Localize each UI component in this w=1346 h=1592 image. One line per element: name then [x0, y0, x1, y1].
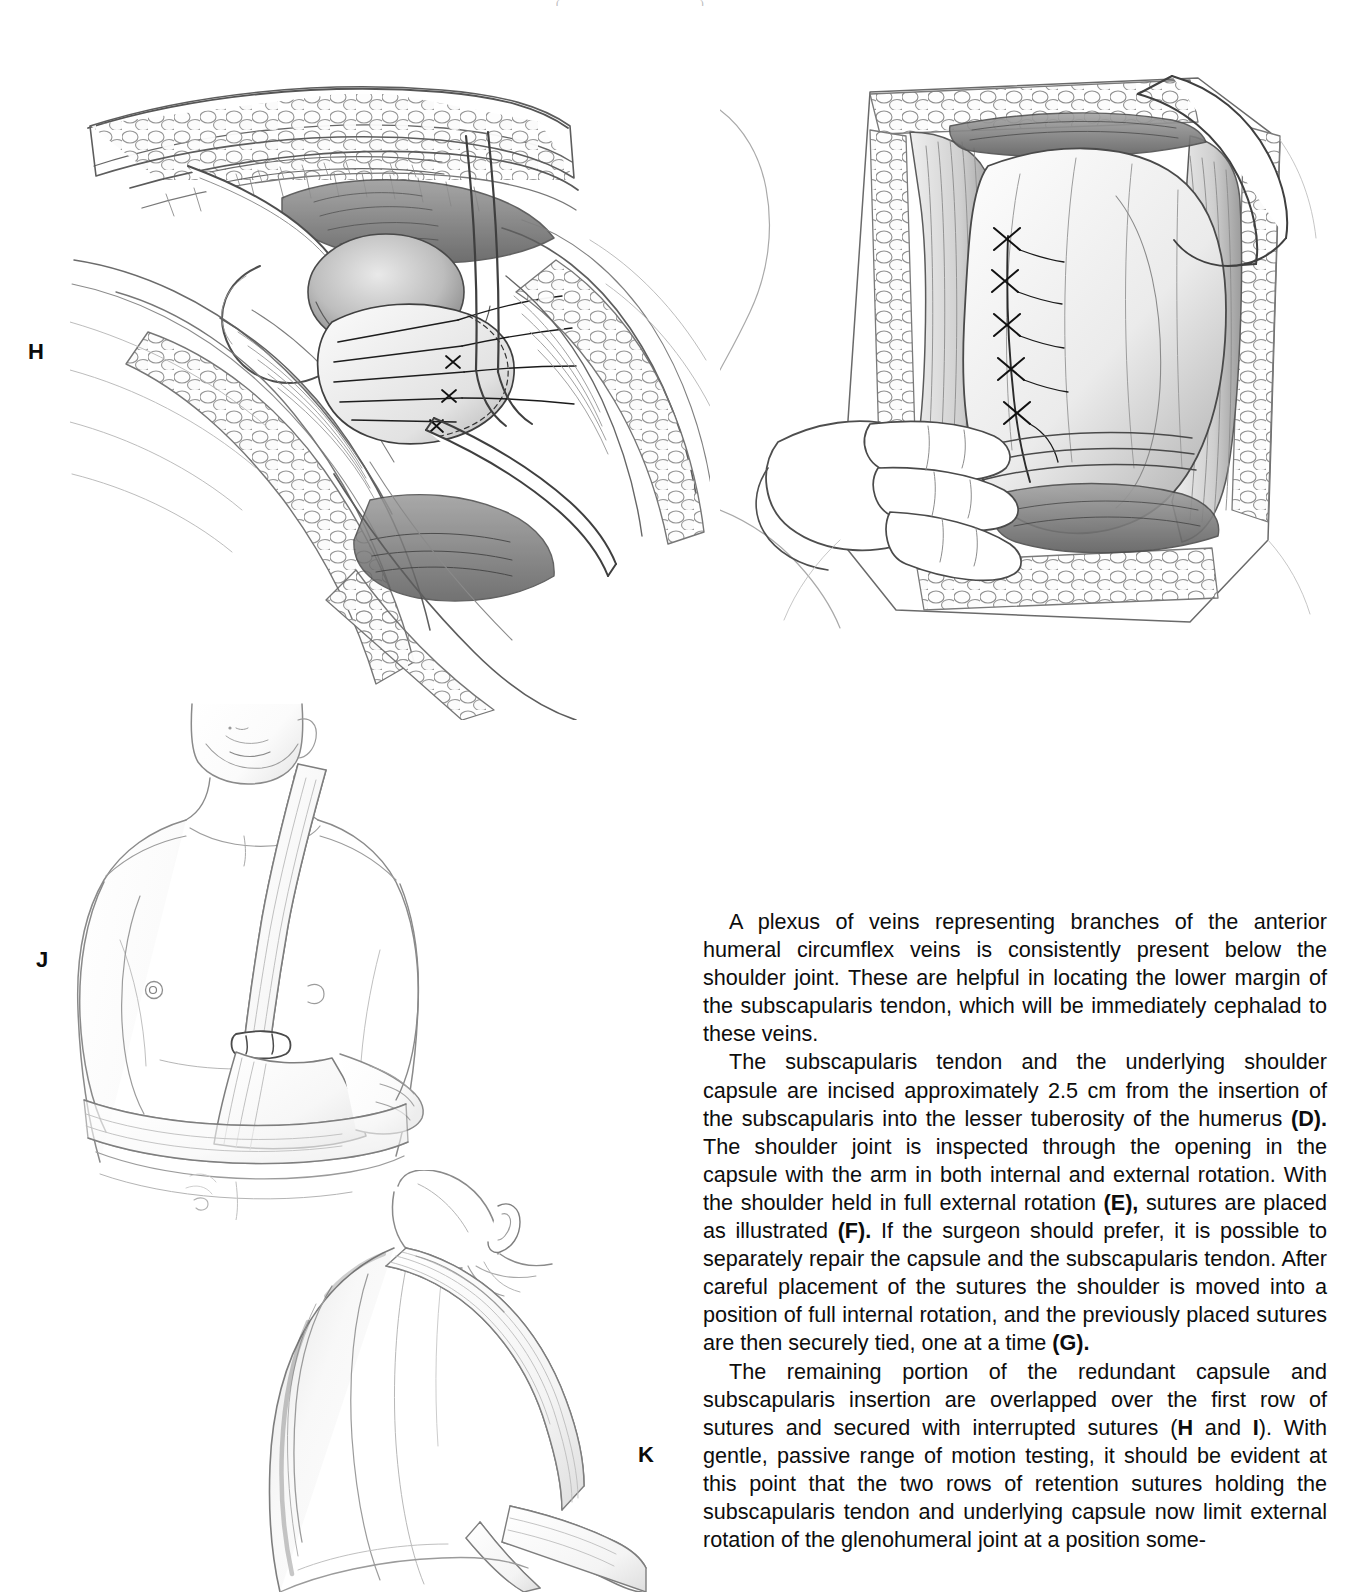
header-remnant-left: ( — [556, 0, 560, 6]
figure-label-k: K — [638, 1444, 654, 1466]
header-remnant-right: ) — [700, 0, 704, 6]
paragraph-subscapularis: The subscapularis tendon and the underly… — [703, 1048, 1327, 1357]
paragraph-remaining: The remaining portion of the redundant c… — [703, 1358, 1327, 1555]
paragraph-veins: A plexus of veins representing branches … — [703, 908, 1327, 1048]
figure-h-illustration — [70, 70, 710, 720]
figure-j-illustration — [40, 700, 540, 1220]
body-text-column: A plexus of veins representing branches … — [703, 908, 1327, 1554]
figure-i-illustration — [720, 70, 1320, 670]
textbook-page: ( ) — [0, 0, 1346, 1592]
figure-label-h: H — [28, 341, 44, 363]
figure-k-illustration — [180, 1170, 650, 1592]
figure-label-j: J — [36, 949, 49, 971]
